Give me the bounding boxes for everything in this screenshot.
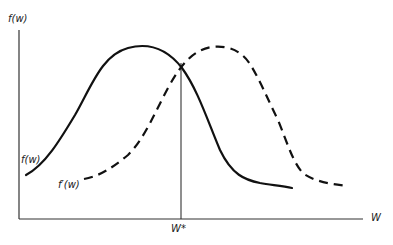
diagram-canvas — [0, 0, 393, 245]
threshold-label: W* — [171, 224, 186, 234]
distribution-diagram: f(w) W W* f(w) f′(w) — [0, 0, 393, 245]
curve-f-prime-w — [84, 47, 348, 186]
curve-label-f-prime-w: f′(w) — [58, 180, 80, 190]
curve-label-f-w: f(w) — [21, 155, 41, 165]
curve-f-w — [26, 46, 292, 188]
x-axis-label: W — [371, 213, 381, 223]
y-axis-label: f(w) — [8, 14, 28, 24]
